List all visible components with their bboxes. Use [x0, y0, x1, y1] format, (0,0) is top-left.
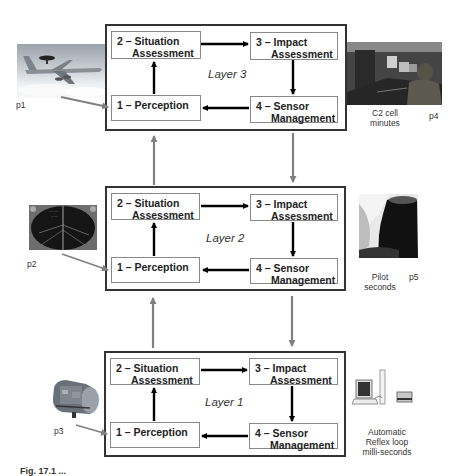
- node-line1: 4 – Sensor: [256, 100, 309, 112]
- svg-text:·· ····: ·· ····: [51, 215, 58, 219]
- node-line2: Assessment: [117, 47, 200, 59]
- node-line1: 4 – Sensor: [255, 427, 308, 439]
- node-line1: 3 – Impact: [255, 362, 306, 374]
- layer-1-sensor-management: 4 – Sensor Management: [249, 423, 338, 449]
- reflex-caption-line3: milli-seconds: [352, 447, 422, 457]
- pilot-caption-line1: Pilot: [362, 272, 398, 282]
- layer-3-label: Layer 3: [208, 68, 246, 80]
- node-line1: 1 – Perception: [116, 426, 188, 438]
- layer-1-impact-assessment: 3 – Impact Assessment: [249, 358, 338, 385]
- pilot-caption: Pilot seconds: [362, 272, 398, 292]
- figure-caption: Fig. 17.1 ...: [20, 466, 66, 476]
- p5-label: p5: [409, 272, 418, 282]
- p4-label: p4: [429, 111, 438, 121]
- sensor-device-image: [50, 376, 102, 424]
- radar-icon: ···· ···· ·· ····: [29, 205, 97, 250]
- node-line1: 2 – Situation: [117, 35, 179, 47]
- c2-cell-caption-line1: C2 cell: [360, 108, 410, 118]
- node-line2: Assessment: [117, 209, 199, 221]
- airplane-icon: [17, 44, 105, 98]
- node-line2: Management: [255, 439, 337, 451]
- layer-2-situation-assessment: 2 – Situation Assessment: [111, 193, 200, 220]
- pilot-caption-line2: seconds: [362, 282, 398, 292]
- node-line1: 3 – Impact: [256, 198, 307, 210]
- pilot-icon: [359, 194, 418, 258]
- node-line1: 1 – Perception: [117, 261, 189, 273]
- node-line1: 1 – Perception: [117, 99, 189, 111]
- aircraft-image: [17, 44, 105, 98]
- p3-label: p3: [54, 426, 63, 436]
- node-line2: Assessment: [116, 374, 199, 386]
- p2-label: p2: [27, 259, 36, 269]
- node-line1: 3 – Impact: [256, 36, 307, 48]
- node-line2: Management: [256, 274, 337, 286]
- layer-3-impact-assessment: 3 – Impact Assessment: [250, 32, 338, 60]
- c2-cell-caption: C2 cell minutes: [360, 108, 410, 128]
- c2-cell-image: [347, 42, 442, 105]
- c2-cell-caption-line2: minutes: [360, 118, 410, 128]
- layer-1-situation-assessment: 2 – Situation Assessment: [110, 358, 200, 385]
- reflex-caption-line1: Automatic: [352, 427, 422, 437]
- reflex-loop-caption: Automatic Reflex loop milli-seconds: [352, 427, 422, 457]
- node-line1: 2 – Situation: [116, 362, 178, 374]
- layer-3-perception: 1 – Perception: [111, 95, 201, 121]
- sensor-device-icon: [50, 376, 102, 424]
- node-line1: 2 – Situation: [117, 197, 179, 209]
- workstation-image: [350, 368, 420, 408]
- layer-2-sensor-management: 4 – Sensor Management: [250, 258, 338, 284]
- layer-2-perception: 1 – Perception: [111, 257, 200, 283]
- layer-3-sensor-management: 4 – Sensor Management: [250, 96, 338, 123]
- node-line1: 4 – Sensor: [256, 262, 309, 274]
- node-line2: Management: [256, 112, 337, 124]
- layer-1-perception: 1 – Perception: [110, 422, 200, 448]
- node-line2: Assessment: [256, 210, 337, 222]
- svg-text:···· ····: ···· ····: [49, 210, 58, 214]
- computer-workstation-icon: [350, 368, 420, 408]
- node-line2: Assessment: [255, 374, 337, 386]
- layer-2-impact-assessment: 3 – Impact Assessment: [250, 194, 338, 221]
- node-line2: Assessment: [256, 48, 337, 60]
- radar-display-image: ···· ···· ·· ····: [29, 205, 97, 250]
- reflex-caption-line2: Reflex loop: [352, 437, 422, 447]
- layer-1-label: Layer 1: [205, 396, 243, 408]
- layer-3-situation-assessment: 2 – Situation Assessment: [111, 31, 201, 59]
- pilot-image: [359, 194, 418, 258]
- c2-cell-operators-icon: [347, 42, 442, 105]
- layer-2-label: Layer 2: [206, 232, 244, 244]
- p1-label: p1: [16, 100, 25, 110]
